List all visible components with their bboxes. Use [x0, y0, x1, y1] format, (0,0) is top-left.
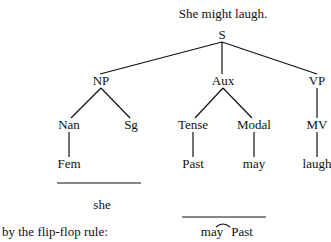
node-np: NP: [93, 74, 110, 88]
aux-result-may: may: [201, 225, 223, 239]
node-aux: Aux: [212, 74, 234, 88]
tree-lines: [0, 0, 331, 242]
np-result-she: she: [93, 198, 110, 212]
node-s: S: [218, 28, 225, 42]
aux-result-past: Past: [231, 225, 253, 239]
node-mv: MV: [307, 118, 328, 132]
node-nan: Nan: [58, 118, 80, 132]
flip-flop-rule-label: by the flip-flop rule:: [2, 225, 108, 239]
node-laugh: laugh: [303, 157, 331, 171]
sentence-title: She might laugh.: [179, 7, 267, 21]
node-vp: VP: [309, 74, 326, 88]
node-may: may: [243, 157, 265, 171]
node-fem: Fem: [57, 157, 80, 171]
node-tense: Tense: [178, 118, 208, 132]
node-past: Past: [182, 157, 204, 171]
node-modal: Modal: [237, 118, 271, 132]
node-sg: Sg: [124, 118, 138, 132]
